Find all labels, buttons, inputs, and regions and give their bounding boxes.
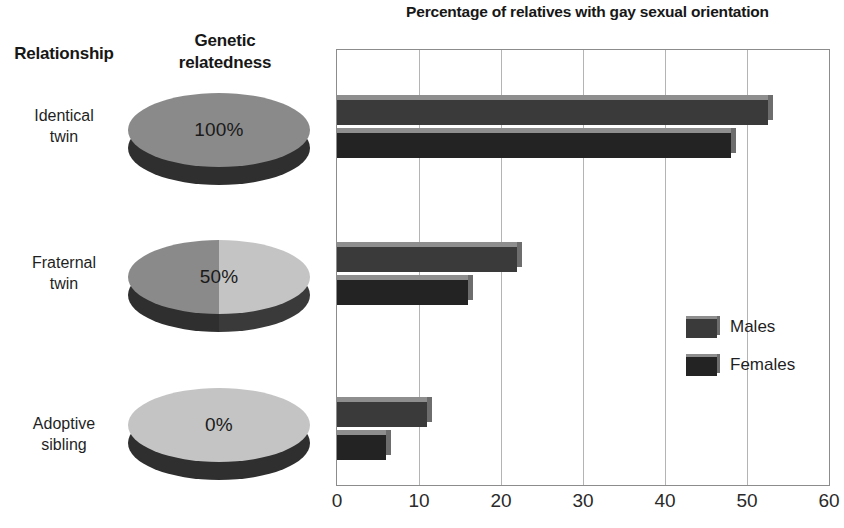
legend-item-males[interactable]: Males (686, 308, 806, 346)
legend-swatch-males-icon (686, 316, 720, 338)
bar-females-fraternal-twin (337, 275, 473, 305)
row-label-identical-twin: Identicaltwin (0, 106, 128, 148)
bar-females-adoptive-sibling (337, 430, 391, 460)
bar-males-identical-twin (337, 95, 773, 125)
x-tick-label-30: 30 (563, 490, 603, 512)
pie-chart-adoptive-sibling: 0% (128, 388, 310, 492)
pie-chart-fraternal-twin: 50% (128, 240, 310, 344)
row-label-adoptive-sibling: Adoptivesibling (0, 414, 128, 456)
x-tick-label-20: 20 (481, 490, 521, 512)
chart-title: Percentage of relatives with gay sexual … (336, 3, 839, 21)
x-tick-label-10: 10 (399, 490, 439, 512)
bar-males-adoptive-sibling (337, 397, 432, 427)
x-tick-label-0: 0 (317, 490, 357, 512)
pie-percent-label-fraternal-twin: 50% (128, 240, 310, 314)
pie-percent-label-identical-twin: 100% (128, 93, 310, 167)
x-tick-label-60: 60 (809, 490, 844, 512)
bar-females-identical-twin (337, 128, 736, 158)
x-tick-label-50: 50 (727, 490, 767, 512)
legend-swatch-females-icon (686, 354, 720, 376)
chart-legend: Males Females (686, 308, 806, 384)
pie-percent-label-adoptive-sibling: 0% (128, 388, 310, 462)
bar-males-fraternal-twin (337, 242, 522, 272)
legend-label-females: Females (730, 355, 795, 375)
legend-label-males: Males (730, 317, 775, 337)
plot-area (336, 49, 830, 486)
genetic-relatedness-column-header: Geneticrelatedness (130, 30, 320, 74)
legend-item-females[interactable]: Females (686, 346, 806, 384)
pie-chart-identical-twin: 100% (128, 93, 310, 197)
x-tick-label-40: 40 (645, 490, 685, 512)
row-label-fraternal-twin: Fraternaltwin (0, 253, 128, 295)
relationship-column-header: Relationship (0, 44, 128, 64)
